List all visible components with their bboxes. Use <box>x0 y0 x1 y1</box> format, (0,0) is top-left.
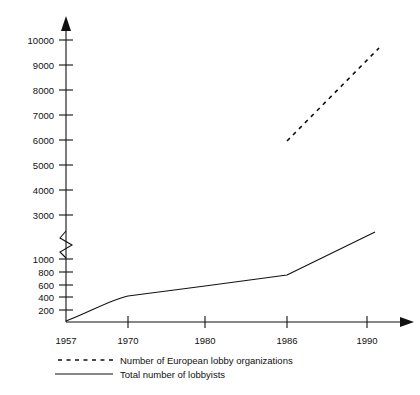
series-line-european-lobby-organizations <box>287 48 379 141</box>
chart-container: 10000 9000 8000 7000 6000 5000 4000 3000… <box>0 0 420 395</box>
y-tick-label: 4000 <box>33 185 54 196</box>
legend: Number of European lobby organizations T… <box>55 355 293 380</box>
x-tick-label: 1970 <box>117 335 138 346</box>
y-tick-label: 3000 <box>33 210 54 221</box>
y-tick-label: 1000 <box>33 254 54 265</box>
y-tick-label: 400 <box>38 292 54 303</box>
y-tick-label: 6000 <box>33 135 54 146</box>
x-tick-label: 1980 <box>194 335 215 346</box>
y-tick-label: 600 <box>38 280 54 291</box>
x-tick-label: 1957 <box>55 335 76 346</box>
y-tick-label: 9000 <box>33 60 54 71</box>
legend-label-total-lobbyists: Total number of lobbyists <box>120 369 225 380</box>
y-axis-tick-labels: 10000 9000 8000 7000 6000 5000 4000 3000… <box>28 35 54 316</box>
legend-label-european-lobby-organizations: Number of European lobby organizations <box>120 355 293 366</box>
y-tick-label: 10000 <box>28 35 54 46</box>
series-line-total-lobbyists <box>66 232 375 321</box>
line-chart: 10000 9000 8000 7000 6000 5000 4000 3000… <box>0 0 420 395</box>
x-tick-label: 1990 <box>356 335 377 346</box>
y-tick-label: 7000 <box>33 110 54 121</box>
x-axis-tick-labels: 1957 1970 1980 1986 1990 <box>55 335 377 346</box>
x-axis-arrow-icon <box>400 317 414 327</box>
y-axis-arrow-icon <box>61 16 71 31</box>
x-tick-label: 1986 <box>276 335 297 346</box>
y-tick-label: 5000 <box>33 160 54 171</box>
y-tick-label: 200 <box>38 305 54 316</box>
y-tick-label: 800 <box>38 267 54 278</box>
y-tick-label: 8000 <box>33 85 54 96</box>
